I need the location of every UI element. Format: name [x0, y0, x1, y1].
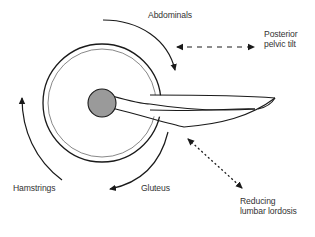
label-hamstrings: Hamstrings — [13, 183, 55, 193]
label-gluteus: Gluteus — [141, 183, 170, 193]
gluteus-arrow-icon — [110, 132, 168, 189]
label-reducing-lordosis: Reducing lumbar lordosis — [240, 196, 297, 216]
label-abdominals: Abdominals — [148, 10, 192, 20]
label-posterior-pelvic-tilt: Posterior pelvic tilt — [264, 29, 298, 49]
hip-joint-icon — [88, 89, 116, 117]
label-reducing-line1: Reducing — [240, 196, 297, 206]
label-reducing-line2: lumbar lordosis — [240, 206, 297, 216]
label-posterior-line2: pelvic tilt — [264, 39, 298, 49]
femur-band — [108, 93, 275, 127]
reducing-lordosis-arrow-icon — [188, 139, 242, 188]
label-posterior-line1: Posterior — [264, 29, 298, 39]
